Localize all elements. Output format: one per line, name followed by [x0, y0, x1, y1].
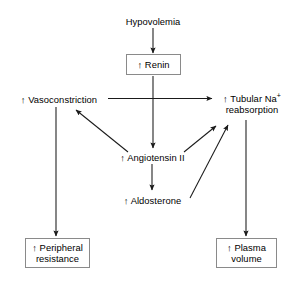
node-tubular-na-line2: reabsorption	[226, 104, 279, 115]
node-tubular-na-superscript: +	[277, 91, 281, 98]
node-renin-label: ↑ Renin	[137, 59, 169, 70]
node-hypovolemia[interactable]: Hypovolemia	[110, 14, 196, 28]
node-plasma-volume-line2: volume	[231, 253, 262, 264]
node-plasma-volume[interactable]: ↑ Plasma volume	[216, 238, 277, 268]
edge-angiotensin-ii-to-tubular-na	[184, 126, 216, 152]
node-peripheral-resistance-line1: ↑ Peripheral	[32, 242, 83, 253]
node-tubular-na-reabsorption[interactable]: ↑ Tubular Na+ reabsorption	[211, 91, 293, 116]
node-renin[interactable]: ↑ Renin	[126, 54, 181, 75]
edge-aldosterone-to-tubular-na	[190, 125, 228, 198]
edge-angiotensin-ii-to-vasoconstriction	[76, 110, 128, 152]
node-aldosterone-label: ↑ Aldosterone	[124, 195, 181, 206]
node-angiotensin-ii-label: ↑ Angiotensin II	[120, 152, 184, 163]
node-plasma-volume-line1: ↑ Plasma	[227, 242, 266, 253]
node-vasoconstriction[interactable]: ↑ Vasoconstriction	[12, 92, 106, 106]
flow-diagram: Hypovolemia ↑ Renin ↑ Vasoconstriction ↑…	[0, 0, 295, 284]
node-vasoconstriction-label: ↑ Vasoconstriction	[21, 94, 97, 105]
node-peripheral-resistance[interactable]: ↑ Peripheral resistance	[25, 238, 90, 268]
node-tubular-na-text: ↑ Tubular Na	[223, 93, 277, 104]
node-peripheral-resistance-line2: resistance	[36, 253, 79, 264]
node-hypovolemia-label: Hypovolemia	[126, 16, 181, 27]
node-tubular-na-line1: ↑ Tubular Na+	[223, 93, 281, 104]
node-aldosterone[interactable]: ↑ Aldosterone	[113, 193, 192, 207]
node-angiotensin-ii[interactable]: ↑ Angiotensin II	[111, 150, 194, 164]
